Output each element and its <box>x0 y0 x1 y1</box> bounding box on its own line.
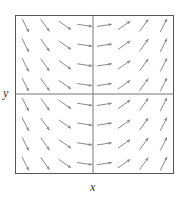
slope-field-plot <box>0 0 177 201</box>
y-axis-label: y <box>3 86 8 101</box>
x-axis-label: x <box>90 180 95 195</box>
